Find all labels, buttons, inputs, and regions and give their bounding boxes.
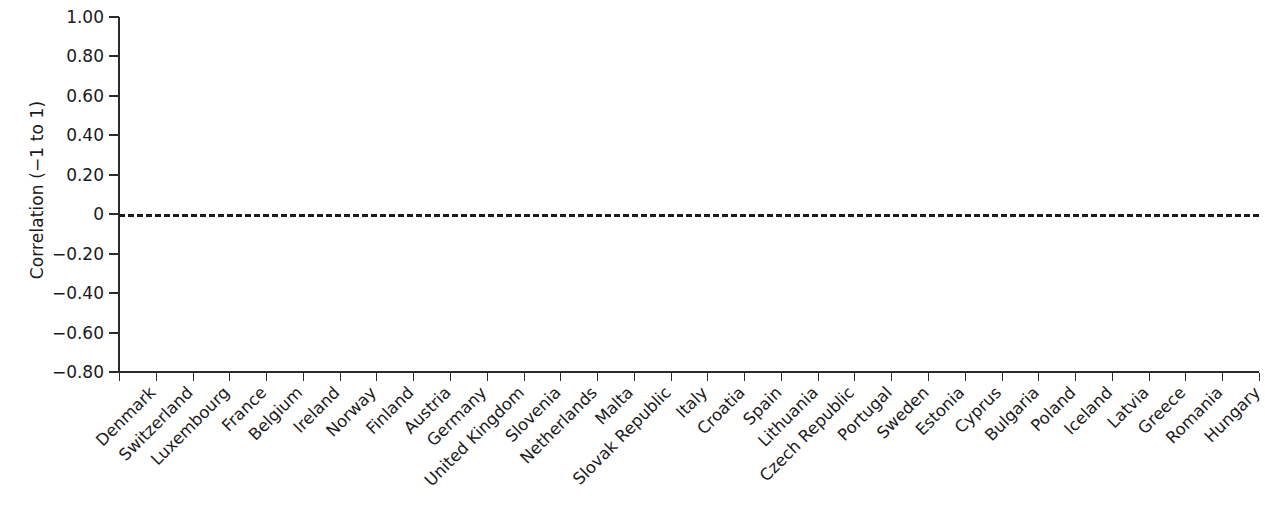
- zero-reference-line: [119, 214, 1259, 217]
- x-tick-mark: [1222, 373, 1223, 381]
- x-tick-mark: [928, 373, 929, 381]
- x-tick-mark: [1259, 373, 1260, 381]
- x-tick-mark: [707, 373, 708, 381]
- y-tick-label: 0.40: [0, 125, 104, 145]
- x-tick-mark: [781, 373, 782, 381]
- x-tick-mark: [744, 373, 745, 381]
- plot-area: [119, 17, 1259, 372]
- x-tick-mark: [1002, 373, 1003, 381]
- x-tick-mark: [156, 373, 157, 381]
- x-tick-mark: [1185, 373, 1186, 381]
- y-tick-label: 0.20: [0, 165, 104, 185]
- x-tick-mark: [597, 373, 598, 381]
- x-tick-mark: [671, 373, 672, 381]
- y-tick-label: 0: [0, 204, 104, 224]
- x-tick-mark: [487, 373, 488, 381]
- y-tick-label: 0.80: [0, 46, 104, 66]
- x-tick-mark: [560, 373, 561, 381]
- y-tick-label: −0.80: [0, 362, 104, 382]
- x-tick-mark: [965, 373, 966, 381]
- x-tick-mark: [266, 373, 267, 381]
- x-tick-mark: [1149, 373, 1150, 381]
- y-tick-label: 0.60: [0, 86, 104, 106]
- correlation-bar-chart: Correlation (−1 to 1) 1.000.800.600.400.…: [0, 0, 1265, 515]
- y-tick-label: −0.20: [0, 244, 104, 264]
- x-tick-mark: [376, 373, 377, 381]
- x-tick-mark: [1038, 373, 1039, 381]
- x-tick-mark: [891, 373, 892, 381]
- x-tick-mark: [193, 373, 194, 381]
- x-tick-mark: [818, 373, 819, 381]
- x-tick-mark: [413, 373, 414, 381]
- x-tick-mark: [1112, 373, 1113, 381]
- y-tick-label: 1.00: [0, 7, 104, 27]
- x-tick-mark: [450, 373, 451, 381]
- x-tick-mark: [524, 373, 525, 381]
- x-tick-mark: [340, 373, 341, 381]
- x-tick-mark: [854, 373, 855, 381]
- x-tick-mark: [229, 373, 230, 381]
- y-tick-label: −0.60: [0, 323, 104, 343]
- x-tick-mark: [119, 373, 120, 381]
- x-tick-mark: [634, 373, 635, 381]
- x-tick-mark: [1075, 373, 1076, 381]
- x-tick-mark: [303, 373, 304, 381]
- y-tick-label: −0.40: [0, 283, 104, 303]
